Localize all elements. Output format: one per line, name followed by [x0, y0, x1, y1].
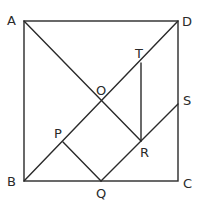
label-q: Q — [96, 186, 106, 201]
segment-ar — [24, 21, 141, 141]
label-s: S — [183, 93, 191, 108]
geometry-diagram: A D B C O T S P Q R — [0, 0, 210, 212]
label-d: D — [182, 14, 192, 29]
label-r: R — [140, 145, 149, 160]
label-b: B — [7, 174, 16, 189]
segment-qs — [101, 104, 178, 181]
segment-pq — [63, 142, 101, 181]
label-t: T — [134, 46, 143, 61]
label-c: C — [183, 176, 192, 191]
label-p: P — [54, 126, 62, 141]
label-o: O — [96, 83, 106, 98]
label-a: A — [7, 13, 16, 28]
